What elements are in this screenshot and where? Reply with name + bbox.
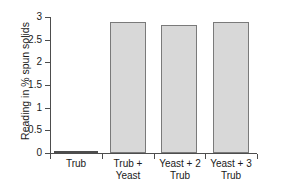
- y-tick-label: 2.5: [20, 35, 42, 45]
- y-tick-mark: [45, 17, 50, 18]
- bar: [161, 25, 197, 153]
- x-tick-label: Trub: [50, 158, 102, 170]
- y-tick-label: 0: [20, 148, 42, 158]
- y-tick-label: 1.5: [20, 80, 42, 90]
- y-tick-mark: [45, 62, 50, 63]
- x-tick-mark: [257, 154, 258, 159]
- y-tick-label: 1: [20, 103, 42, 113]
- y-tick-label: 2: [20, 57, 42, 67]
- y-tick-mark: [45, 85, 50, 86]
- x-tick-label: Trub + Yeast: [102, 158, 154, 181]
- bar: [110, 22, 146, 153]
- bar: [54, 151, 98, 153]
- bar: [213, 22, 249, 153]
- y-axis-line: [50, 17, 51, 154]
- bar-chart: Reading in % spun solids 00.511.522.53 T…: [0, 0, 287, 189]
- y-tick-label: 3: [20, 12, 42, 22]
- y-tick-mark: [45, 108, 50, 109]
- y-tick-mark: [45, 130, 50, 131]
- y-tick-label: 0.5: [20, 125, 42, 135]
- x-tick-label: Yeast + 3 Trub: [205, 158, 257, 181]
- y-axis-title-container: Reading in % spun solids: [2, 10, 16, 156]
- x-tick-label: Yeast + 2 Trub: [154, 158, 206, 181]
- y-tick-mark: [45, 40, 50, 41]
